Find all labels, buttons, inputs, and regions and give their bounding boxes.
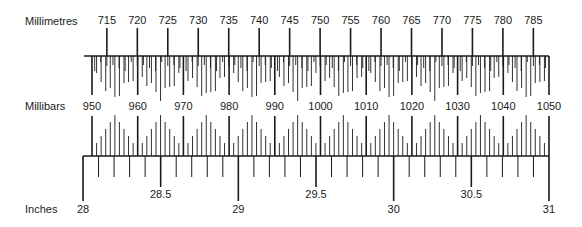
barometer-scale-graphic: [0, 0, 582, 227]
